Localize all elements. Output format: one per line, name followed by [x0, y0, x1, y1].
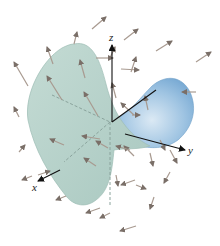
x-axis-label: x — [32, 182, 37, 193]
y-axis-label: y — [188, 145, 193, 156]
z-axis-label: z — [109, 32, 113, 43]
vector-field-figure: z y x — [0, 0, 220, 246]
